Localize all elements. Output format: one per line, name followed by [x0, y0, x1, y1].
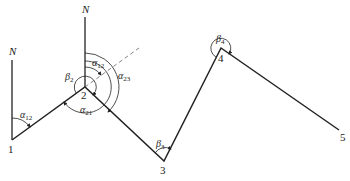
beta4-label: β4 [215, 33, 225, 46]
traverse-path [12, 48, 339, 161]
point-label-3: 3 [160, 164, 166, 176]
traverse-diagram: N N 1 2 3 4 5 α12 α12 α23 α21 β2 β3 β4 [0, 0, 350, 181]
beta3-label: β3 [155, 138, 165, 151]
point-label-5: 5 [340, 131, 346, 143]
north-label-2: N [81, 3, 90, 15]
beta2-label: β2 [64, 71, 74, 84]
north-label-1: N [8, 45, 17, 57]
point-label-1: 1 [8, 143, 14, 155]
point-label-4: 4 [218, 52, 224, 64]
alpha21-label: α21 [80, 104, 93, 117]
alpha23-label: α23 [118, 70, 131, 83]
point-label-2: 2 [81, 89, 87, 101]
alpha12-label-2: α12 [92, 57, 105, 70]
